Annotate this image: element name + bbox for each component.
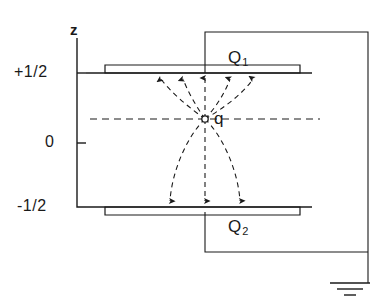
capacitor-point-charge-figure: z +1/2 0 -1/2 Q1 Q2 q (0, 0, 389, 305)
ground-icon (330, 283, 370, 295)
bottom-plate-label: Q2 (228, 218, 248, 237)
axis-tick-label-plus-half: +1/2 (14, 64, 48, 80)
field-line-up-1 (161, 79, 205, 119)
axis-tick-label-zero: 0 (45, 134, 54, 150)
field-lines-up (161, 78, 253, 119)
field-line-up-2 (183, 79, 205, 119)
bottom-plate (86, 207, 312, 215)
z-axis (77, 38, 86, 207)
bottom-plate-label-main: Q (228, 217, 241, 236)
field-line-up-5 (205, 79, 253, 119)
field-line-down-3 (205, 119, 240, 201)
point-charge-marker (202, 116, 208, 122)
top-plate-label: Q1 (228, 49, 248, 68)
bottom-plate-label-subscript: 2 (241, 225, 248, 237)
field-lines-down (170, 119, 240, 201)
axis-tick-label-minus-half: -1/2 (17, 198, 47, 214)
top-plate-label-subscript: 1 (241, 56, 248, 68)
top-plate (86, 65, 312, 73)
figure-canvas (0, 0, 389, 305)
field-line-down-1 (170, 119, 205, 201)
point-charge-label: q (214, 110, 223, 127)
top-plate-label-main: Q (228, 48, 241, 67)
axis-name-z: z (70, 22, 78, 37)
